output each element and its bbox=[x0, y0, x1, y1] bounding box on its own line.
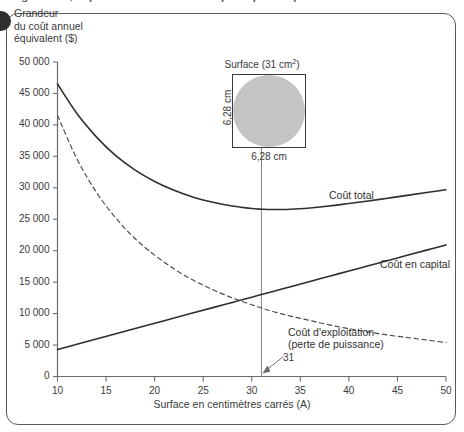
x-tick-label: 50 bbox=[426, 385, 464, 396]
x-tick-label: 10 bbox=[38, 385, 78, 396]
inset-circle-shape bbox=[233, 75, 305, 147]
operating-cost-label-line1: Coût d'exploitation bbox=[288, 326, 374, 339]
y-tick-label: 5 000 bbox=[0, 339, 50, 350]
total-cost-label: Coût total bbox=[329, 189, 374, 202]
y-tick-label: 25 000 bbox=[0, 213, 50, 224]
inset-title-suffix: ) bbox=[296, 59, 299, 70]
annotation-arrow-head bbox=[262, 366, 270, 374]
x-tick-label: 20 bbox=[135, 385, 175, 396]
inset-title: Surface (31 cm2) bbox=[196, 58, 328, 70]
inset-label-bottom: 6,28 cm bbox=[232, 151, 306, 162]
y-tick-label: 0 bbox=[0, 370, 50, 381]
x-tick-label: 45 bbox=[377, 385, 417, 396]
x-tick-label: 35 bbox=[280, 385, 320, 396]
inset-title-prefix: Surface (31 cm bbox=[224, 59, 292, 70]
y-tick-label: 15 000 bbox=[0, 276, 50, 287]
y-tick-label: 40 000 bbox=[0, 118, 50, 129]
inset-label-left: 6,28 cm bbox=[222, 70, 233, 146]
y-tick-label: 50 000 bbox=[0, 56, 50, 67]
inset-diagram: Surface (31 cm2) 6,28 cm 6,28 cm bbox=[196, 58, 328, 168]
x-tick-label: 15 bbox=[86, 385, 126, 396]
y-tick-label: 30 000 bbox=[0, 181, 50, 192]
x-tick-label: 40 bbox=[329, 385, 369, 396]
y-tick-label: 35 000 bbox=[0, 150, 50, 161]
x-tick-label: 25 bbox=[183, 385, 223, 396]
operating-cost-label-line2: (perte de puissance) bbox=[288, 338, 384, 351]
annotation-31-label: 31 bbox=[283, 352, 294, 363]
y-tick-label: 10 000 bbox=[0, 307, 50, 318]
y-tick-label: 20 000 bbox=[0, 244, 50, 255]
x-tick-label: 30 bbox=[232, 385, 272, 396]
y-tick-label: 45 000 bbox=[0, 87, 50, 98]
capital-cost-label: Coût en capital bbox=[380, 258, 450, 271]
